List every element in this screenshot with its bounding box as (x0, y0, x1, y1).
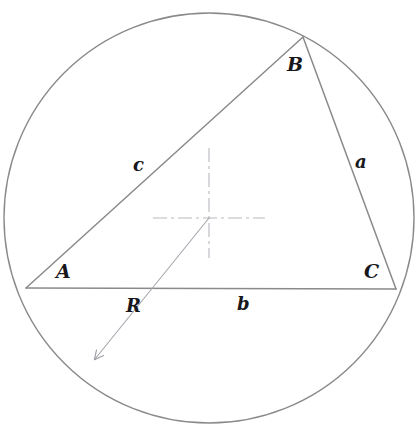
diagram-canvas (0, 0, 417, 435)
side-label-a: a (355, 153, 367, 171)
vertex-label-c: C (364, 262, 379, 281)
triangle-side-b (26, 288, 396, 289)
side-label-b: b (237, 295, 250, 313)
triangle-side-c (26, 37, 303, 288)
radius-label: R (126, 297, 141, 315)
vertex-label-a: A (56, 262, 71, 281)
triangle-side-a (303, 37, 396, 289)
side-label-c: c (133, 156, 144, 174)
geometry-diagram: A B C a b c R (0, 0, 417, 435)
vertex-label-b: B (287, 55, 303, 74)
